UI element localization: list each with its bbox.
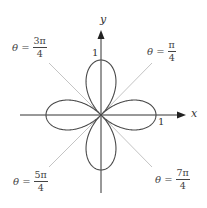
y-tick-label: 1 [92, 48, 98, 58]
fraction: 5π 4 [34, 170, 48, 192]
theta-label-pi-over-4: θ = π 4 [147, 40, 176, 62]
fraction: 7π 4 [176, 168, 190, 190]
x-axis-label: x [191, 108, 197, 119]
theta-prefix: θ = [12, 42, 30, 53]
tangent-line-pi-over-4 [101, 63, 152, 115]
theta-label-3pi-over-4: θ = 3π 4 [12, 36, 47, 58]
fraction: 3π 4 [33, 36, 47, 58]
numerator: π [168, 40, 176, 52]
denominator: 4 [180, 180, 186, 191]
theta-prefix: θ = [13, 176, 31, 187]
numerator: 5π [34, 170, 48, 182]
x-tick-label: 1 [158, 117, 164, 127]
x-axis-arrow-icon [177, 112, 186, 119]
tangent-line-5pi-over-4 [49, 115, 101, 167]
y-axis-arrow-icon [98, 30, 105, 39]
denominator: 4 [169, 52, 175, 63]
fraction: π 4 [168, 40, 176, 62]
denominator: 4 [38, 182, 44, 193]
tangent-line-3pi-over-4 [49, 63, 101, 115]
theta-label-5pi-over-4: θ = 5π 4 [13, 170, 48, 192]
theta-label-7pi-over-4: θ = 7π 4 [155, 168, 190, 190]
theta-prefix: θ = [147, 46, 165, 57]
numerator: 7π [176, 168, 190, 180]
y-axis-label: y [100, 14, 106, 25]
denominator: 4 [37, 48, 43, 59]
tangent-line-7pi-over-4 [101, 115, 152, 167]
numerator: 3π [33, 36, 47, 48]
theta-prefix: θ = [155, 174, 173, 185]
